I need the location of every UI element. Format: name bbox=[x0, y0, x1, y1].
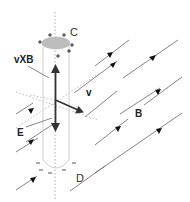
leader-vxb bbox=[28, 66, 49, 78]
arrowhead-icon bbox=[149, 55, 156, 61]
arrowhead-up-icon bbox=[51, 64, 60, 73]
leader-e bbox=[26, 118, 52, 127]
label-v: v bbox=[86, 87, 92, 98]
arrowhead-icon bbox=[107, 52, 113, 58]
force-vector-vxb bbox=[51, 64, 60, 100]
label-vxb: vXB bbox=[14, 54, 33, 65]
arrowhead-icon bbox=[110, 62, 116, 68]
field-line bbox=[16, 138, 38, 152]
arrowhead-icon bbox=[155, 89, 161, 95]
arrowhead-icon bbox=[156, 128, 162, 134]
dotted-guide bbox=[30, 95, 55, 100]
plus-icon bbox=[62, 33, 66, 37]
diagram-canvas: vXB v E B C D bbox=[0, 0, 190, 202]
field-line bbox=[123, 40, 178, 78]
label-b: B bbox=[135, 108, 142, 119]
arrowhead-icon bbox=[28, 108, 34, 114]
plus-icon bbox=[67, 49, 71, 53]
field-line bbox=[95, 119, 128, 145]
plus-icon bbox=[56, 54, 60, 58]
plus-icon bbox=[70, 43, 74, 47]
field-line bbox=[144, 77, 182, 105]
field-line bbox=[95, 113, 182, 173]
plus-icon bbox=[38, 40, 42, 44]
magnetic-field-lines bbox=[16, 40, 182, 191]
label-d: D bbox=[76, 172, 84, 184]
label-c: C bbox=[70, 26, 78, 38]
label-e: E bbox=[17, 127, 24, 138]
plus-icon bbox=[48, 33, 52, 37]
arrowhead-down-icon bbox=[51, 123, 60, 132]
rod-top-cap bbox=[42, 37, 70, 49]
rod-bottom-cap bbox=[43, 160, 69, 168]
